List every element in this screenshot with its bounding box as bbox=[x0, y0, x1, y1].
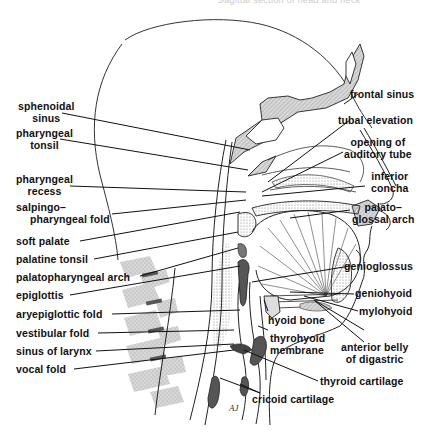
label-line: membrane bbox=[270, 344, 325, 356]
label-line: recess bbox=[16, 185, 73, 197]
label-vestibular-fold: vestibular fold bbox=[16, 327, 89, 339]
label-epiglottis: epiglottis bbox=[16, 289, 64, 301]
label-line: thyrohyoid bbox=[270, 332, 325, 344]
label-soft-palate: soft palate bbox=[16, 235, 70, 247]
label-genioglossus: genioglossus bbox=[344, 260, 413, 272]
label-pharyngeal-tonsil: pharyngeal tonsil bbox=[16, 127, 73, 151]
thyroid-cartilage-shape bbox=[250, 336, 266, 365]
label-pharyngeal-recess: pharyngeal recess bbox=[16, 173, 73, 197]
label-palatoglossal-arch: palato– glossal arch bbox=[352, 201, 414, 225]
label-line: pharyngeal bbox=[16, 173, 73, 185]
label-palatopharyngeal-arch: palatopharyngeal arch bbox=[16, 271, 130, 283]
label-line: tonsil bbox=[16, 139, 73, 151]
label-tubal-elevation: tubal elevation bbox=[338, 114, 413, 126]
label-thyroid-cartilage: thyroid cartilage bbox=[320, 375, 403, 387]
label-thyrohyoid-membrane: thyrohyoid membrane bbox=[270, 332, 325, 356]
epiglottis-shape bbox=[238, 260, 249, 306]
label-vocal-fold: vocal fold bbox=[16, 363, 66, 375]
label-sphenoidal-sinus: sphenoidal sinus bbox=[18, 100, 74, 124]
label-line: of digastric bbox=[341, 353, 408, 365]
label-line: anterior belly bbox=[341, 341, 408, 353]
mylohyoid-shape bbox=[300, 302, 332, 311]
label-line: sinus bbox=[18, 112, 74, 124]
hard-palate bbox=[252, 201, 360, 216]
label-geniohyoid: geniohyoid bbox=[355, 287, 412, 299]
label-inferior-concha: inferior concha bbox=[371, 170, 408, 194]
label-line: concha bbox=[371, 182, 408, 194]
label-line: auditory tube bbox=[344, 148, 412, 160]
label-hyoid-bone: hyoid bone bbox=[268, 314, 325, 326]
label-line: sphenoidal bbox=[18, 100, 74, 112]
label-cricoid-cartilage: cricoid cartilage bbox=[252, 393, 334, 405]
label-line: pharyngeal bbox=[16, 127, 73, 139]
label-line: pharyngeal fold bbox=[16, 213, 110, 225]
label-opening-of-auditory-tube: opening of auditory tube bbox=[344, 136, 412, 160]
soft-palate-shape bbox=[238, 212, 256, 236]
label-line: palato– bbox=[352, 201, 414, 213]
skull-outline bbox=[94, 20, 372, 260]
label-sinus-of-larynx: sinus of larynx bbox=[16, 345, 92, 357]
pharyngeal-stipple bbox=[212, 240, 232, 356]
label-palatine-tonsil: palatine tonsil bbox=[16, 253, 88, 265]
label-mylohyoid: mylohyoid bbox=[359, 305, 412, 317]
cricoid-cartilage-shape bbox=[208, 376, 220, 408]
label-anterior-belly-of-digastric: anterior belly of digastric bbox=[341, 341, 408, 365]
label-line: glossal arch bbox=[352, 213, 414, 225]
label-line: opening of bbox=[344, 136, 412, 148]
anatomy-diagram: Sagittal section of head and neck bbox=[0, 0, 426, 433]
label-frontal-sinus: frontal sinus bbox=[350, 88, 414, 100]
label-salpingopharyngeal-fold: salpingo– pharyngeal fold bbox=[16, 201, 110, 225]
inferior-concha-shape bbox=[272, 175, 354, 192]
label-line: inferior bbox=[371, 170, 408, 182]
label-aryepiglottic-fold: aryepiglottic fold bbox=[16, 308, 102, 320]
label-line: salpingo– bbox=[16, 201, 110, 213]
artist-signature: AJ bbox=[229, 403, 239, 413]
palatine-tonsil-shape bbox=[238, 244, 247, 258]
